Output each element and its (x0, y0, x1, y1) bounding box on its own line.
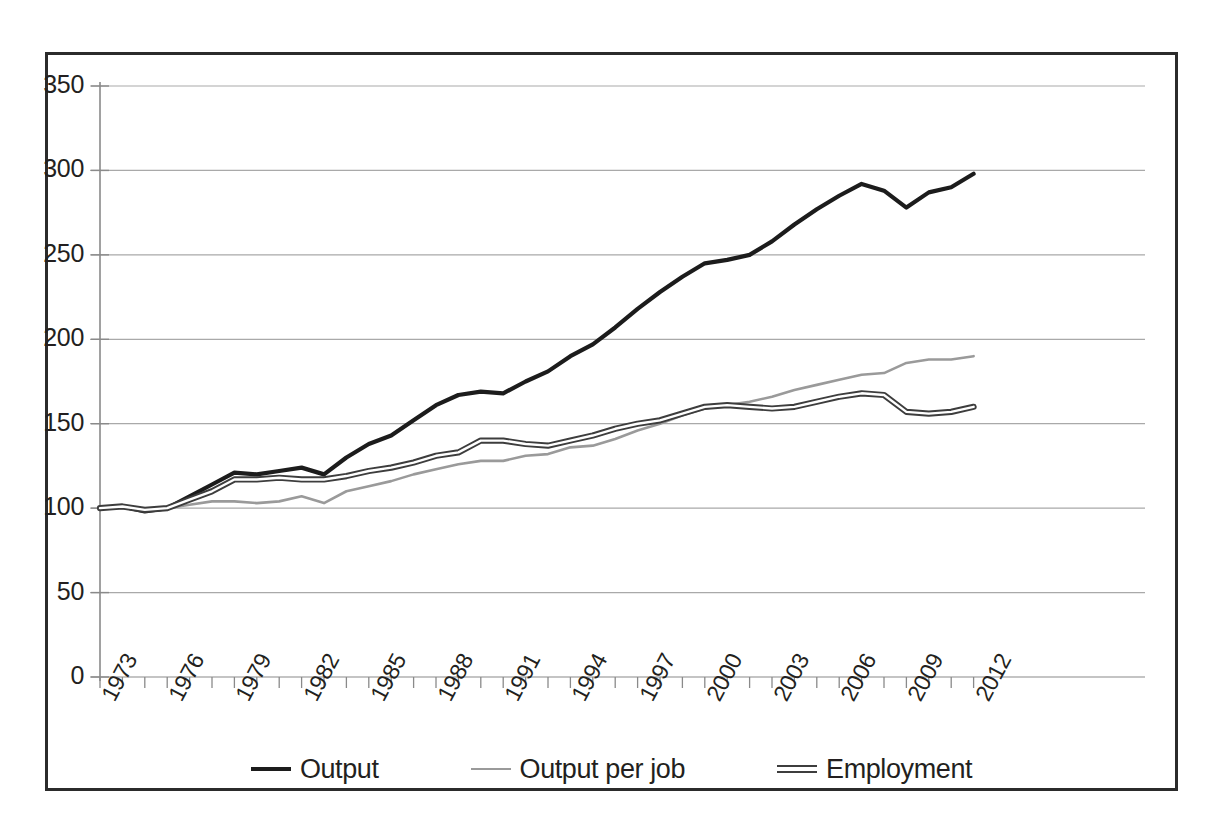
line-double-icon (777, 763, 817, 775)
legend-label: Employment (826, 754, 972, 785)
series-line-employment-outer (100, 393, 974, 510)
series-line-employment-inner (100, 393, 974, 510)
data-series-group (100, 174, 974, 512)
gridlines-group (90, 86, 1145, 677)
y-tick-label: 0 (14, 661, 84, 690)
y-tick-label: 100 (14, 492, 84, 521)
y-tick-label: 200 (14, 323, 84, 352)
line-solid-gray-icon (471, 763, 511, 775)
line-chart-plot (0, 0, 1216, 833)
y-tick-label: 300 (14, 154, 84, 183)
y-tick-label: 350 (14, 70, 84, 99)
legend-label: Output (300, 754, 379, 785)
legend-item-employment[interactable]: Employment (777, 754, 972, 785)
series-line-output (100, 174, 974, 512)
figure: 050100150200250300350 197319761979198219… (0, 0, 1216, 833)
legend-item-output-per-job[interactable]: Output per job (471, 754, 686, 785)
legend-item-output[interactable]: Output (251, 754, 379, 785)
y-tick-label: 150 (14, 408, 84, 437)
y-tick-label: 50 (14, 577, 84, 606)
axis-lines-group (91, 82, 109, 681)
line-solid-dark-icon (251, 763, 291, 775)
series-line-output-per-job (100, 356, 974, 510)
y-tick-label: 250 (14, 239, 84, 268)
chart-legend: OutputOutput per jobEmployment (45, 748, 1178, 790)
legend-label: Output per job (520, 754, 686, 785)
